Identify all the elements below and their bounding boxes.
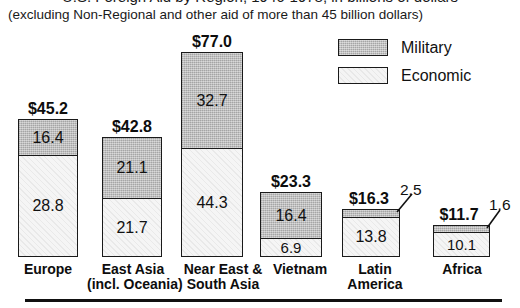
x-axis-label-latin-america-line1: Latin bbox=[358, 261, 391, 277]
x-axis-label-east-asia-line2: (incl. Oceania) bbox=[87, 277, 179, 292]
total-label-europe: $45.2 bbox=[18, 100, 78, 118]
bar-value-military-near-east-south-asia: 32.7 bbox=[196, 93, 227, 109]
total-label-east-asia: $42.8 bbox=[102, 118, 162, 136]
bar-value-economic-near-east-south-asia: 44.3 bbox=[196, 195, 227, 211]
x-axis-label-europe: Europe bbox=[8, 262, 88, 277]
x-axis-label-near-east-south-asia-line1: Near East & bbox=[184, 261, 263, 277]
bar-segment-military-near-east-south-asia[interactable]: 32.7 bbox=[181, 52, 243, 149]
bar-segment-military-europe[interactable]: 16.4 bbox=[18, 119, 78, 156]
bar-segment-economic-vietnam[interactable]: 6.9 bbox=[260, 238, 322, 257]
callout-value-military-latin-america: 2.5 bbox=[400, 181, 422, 199]
bar-segment-military-east-asia[interactable]: 21.1 bbox=[102, 137, 162, 199]
total-label-africa: $11.7 bbox=[428, 206, 490, 224]
x-axis-label-near-east-south-asia: Near East & South Asia bbox=[176, 262, 270, 292]
x-axis-label-east-asia: East Asia (incl. Oceania) bbox=[87, 262, 179, 292]
x-axis-label-near-east-south-asia-line2: South Asia bbox=[176, 277, 270, 292]
x-axis-labels: Europe East Asia (incl. Oceania) Near Ea… bbox=[0, 262, 520, 302]
bar-value-economic-latin-america: 13.8 bbox=[355, 229, 386, 245]
x-axis-rule bbox=[25, 299, 502, 302]
bar-value-military-europe: 16.4 bbox=[32, 130, 63, 146]
bar-value-economic-vietnam: 6.9 bbox=[281, 240, 302, 255]
bar-value-military-east-asia: 21.1 bbox=[116, 160, 147, 176]
bar-segment-economic-east-asia[interactable]: 21.7 bbox=[102, 198, 162, 257]
total-label-latin-america: $16.3 bbox=[338, 190, 400, 208]
bar-value-military-vietnam: 16.4 bbox=[275, 208, 306, 224]
x-axis-label-africa-line1: Africa bbox=[442, 261, 482, 277]
bar-segment-economic-latin-america[interactable]: 13.8 bbox=[342, 217, 400, 257]
bar-value-economic-africa: 10.1 bbox=[447, 237, 476, 252]
x-axis-label-latin-america-line2: America bbox=[338, 277, 412, 292]
total-label-near-east-south-asia: $77.0 bbox=[181, 33, 243, 51]
bar-segment-economic-africa[interactable]: 10.1 bbox=[433, 232, 490, 257]
x-axis-label-vietnam: Vietnam bbox=[262, 262, 338, 277]
bar-value-economic-east-asia: 21.7 bbox=[116, 220, 147, 236]
bar-segment-economic-near-east-south-asia[interactable]: 44.3 bbox=[181, 148, 243, 257]
x-axis-label-east-asia-line1: East Asia bbox=[102, 261, 165, 277]
x-axis-label-europe-line1: Europe bbox=[24, 261, 72, 277]
bar-segment-economic-europe[interactable]: 28.8 bbox=[18, 155, 78, 257]
chart-container: U.S. Foreign Aid by Region, 1946-1978, i… bbox=[0, 0, 520, 308]
x-axis-label-latin-america: Latin America bbox=[338, 262, 412, 292]
callout-value-military-africa: 1.6 bbox=[489, 196, 511, 214]
bar-segment-military-vietnam[interactable]: 16.4 bbox=[260, 192, 322, 239]
total-label-vietnam: $23.3 bbox=[260, 173, 322, 191]
x-axis-label-vietnam-line1: Vietnam bbox=[273, 261, 327, 277]
bar-value-economic-europe: 28.8 bbox=[32, 198, 63, 214]
x-axis-label-africa: Africa bbox=[425, 262, 499, 277]
